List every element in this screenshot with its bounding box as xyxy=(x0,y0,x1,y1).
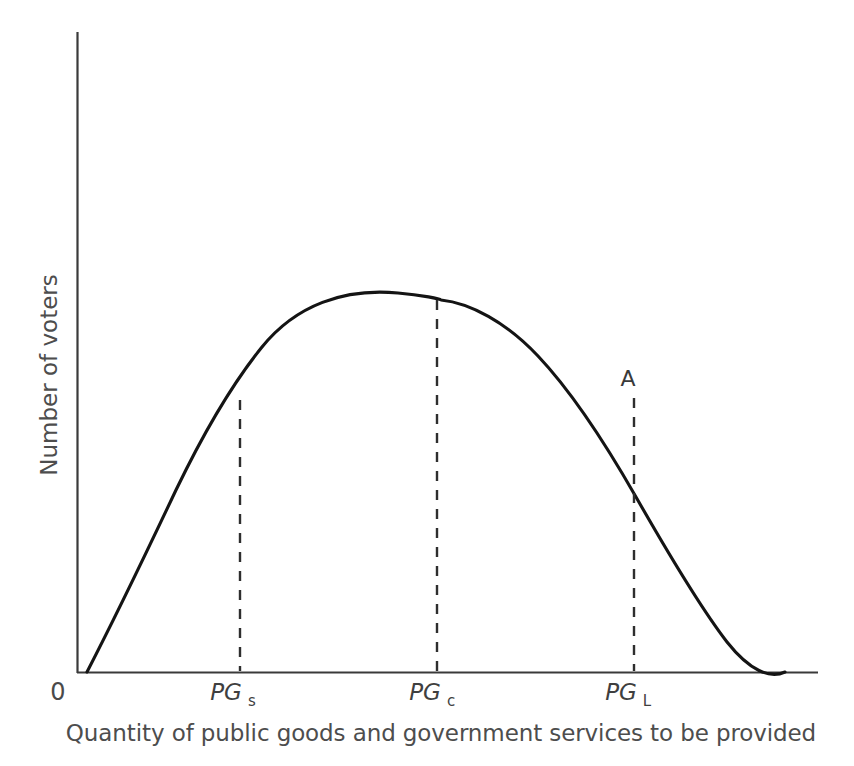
tick-label-pgs-main: PG xyxy=(210,679,242,705)
tick-label-pgc-main: PG xyxy=(409,679,441,705)
tick-label-pgl-main: PG xyxy=(605,679,637,705)
voter-distribution-curve xyxy=(87,292,785,674)
x-axis-title: Quantity of public goods and government … xyxy=(66,720,816,746)
tick-label-pgs: PG s xyxy=(210,679,256,710)
tick-label-pgs-sub: s xyxy=(248,692,256,710)
chart-svg: A 0 PG s PG c PG L Quantity of public go… xyxy=(0,0,854,766)
tick-label-pgc-sub: c xyxy=(447,692,455,710)
tick-label-pgl-sub: L xyxy=(643,692,652,710)
tick-label-pgc: PG c xyxy=(409,679,455,710)
chart-figure: A 0 PG s PG c PG L Quantity of public go… xyxy=(0,0,854,766)
point-a-label: A xyxy=(620,366,635,391)
origin-label: 0 xyxy=(50,678,65,706)
tick-label-pgl: PG L xyxy=(605,679,652,710)
y-axis-title: Number of voters xyxy=(36,274,62,475)
